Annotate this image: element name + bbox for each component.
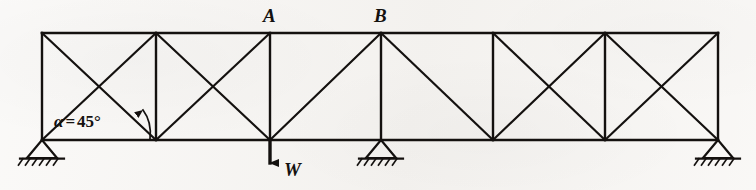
truss-diagram-figure: A B W α=45° — [0, 0, 756, 190]
angle-equals-sign: = — [63, 112, 77, 131]
vertical-members-group — [42, 33, 718, 140]
node-label-a: A — [263, 6, 276, 25]
load-label-w: W — [284, 160, 301, 179]
truss-drawing — [0, 0, 756, 190]
angle-label-alpha: α=45° — [54, 113, 101, 130]
node-label-b: B — [374, 6, 387, 25]
support-left-pinned — [19, 140, 65, 165]
diagonal-panel4-falling — [381, 33, 493, 140]
angle-symbol: α — [54, 112, 63, 131]
support-middle-pinned — [358, 140, 404, 165]
diagonal-panel3-rising — [270, 33, 381, 140]
angle-value: 45° — [77, 112, 101, 131]
support-right-pinned — [695, 140, 741, 165]
